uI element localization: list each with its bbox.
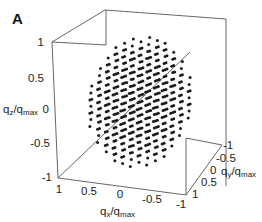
- svg-text:-1: -1: [42, 171, 52, 183]
- svg-text:1: 1: [38, 36, 44, 48]
- y-axis-label: qy/qmax: [221, 165, 256, 179]
- svg-text:1: 1: [56, 183, 62, 195]
- svg-text:0: 0: [210, 164, 216, 176]
- svg-text:-0.5: -0.5: [216, 152, 236, 164]
- svg-text:0.5: 0.5: [201, 176, 217, 188]
- svg-text:-1: -1: [176, 198, 186, 210]
- svg-text:0.5: 0.5: [81, 185, 97, 197]
- z-axis-label: qz/qmax: [3, 103, 38, 117]
- data-points: [88, 36, 191, 168]
- svg-text:1: 1: [192, 188, 198, 200]
- svg-text:-0.5: -0.5: [142, 193, 162, 205]
- svg-text:-1: -1: [223, 139, 233, 151]
- x-axis-ticks: 1 0.5 0 -0.5 -1: [56, 183, 186, 210]
- svg-text:0: 0: [43, 103, 49, 115]
- panel-label: A: [12, 10, 23, 27]
- scatter-3d-figure: A 1 0.5 0 -0.5 -1 qz/qmax 1 0.5 0 -0.5 -…: [0, 0, 262, 222]
- svg-text:0.5: 0.5: [28, 72, 44, 84]
- x-axis-label: qx/qmax: [100, 205, 135, 219]
- svg-text:-0.5: -0.5: [30, 137, 50, 149]
- svg-text:0: 0: [117, 188, 123, 200]
